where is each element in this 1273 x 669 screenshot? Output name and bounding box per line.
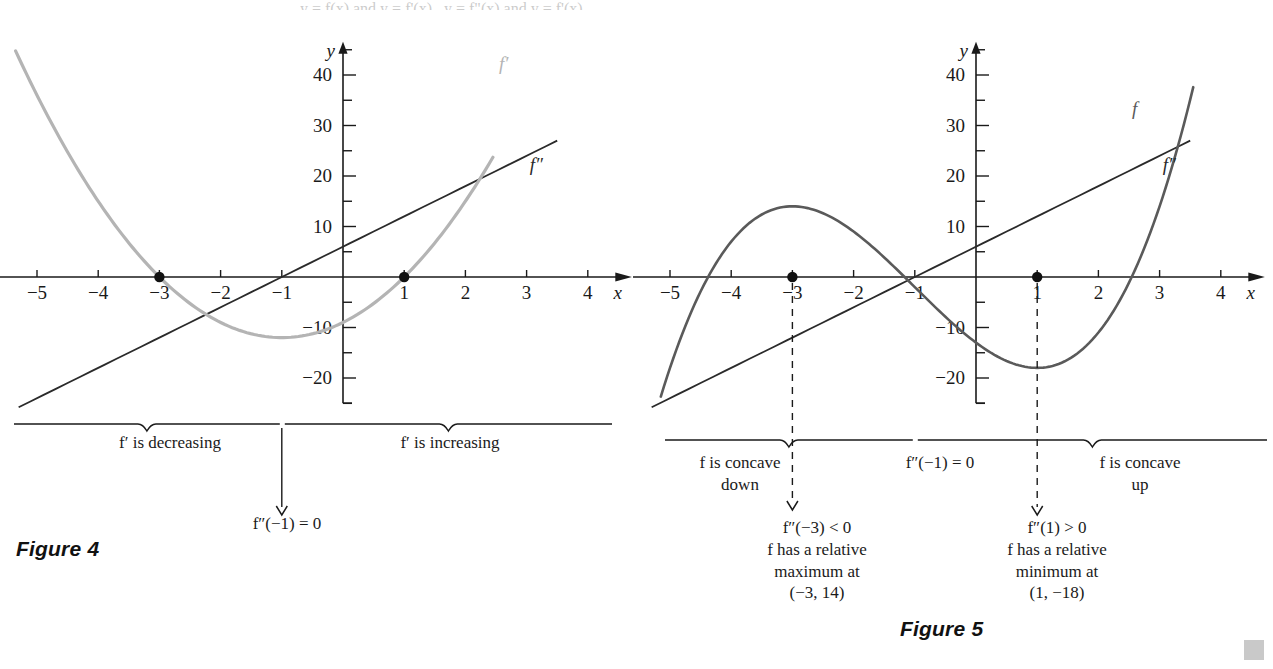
relative-minimum-arrow-head [1032,506,1043,515]
x-tick-label-7: 3 [1155,282,1165,303]
concave-down-label-line-1: down [721,475,759,494]
relative-maximum-line-0: f″(−3) < 0 [783,518,852,537]
y-tick-label-3: 10 [313,216,332,237]
brace-f-prime-increasing [285,424,612,431]
relative-minimum-line-3: (1, −18) [1030,583,1085,602]
marker-root-point-right [399,272,409,282]
y-tick-label-1: 30 [313,115,332,136]
inflection-note-text: f″(−1) = 0 [845,452,1035,474]
figure-page: y = f(x) and y = f'(x) , y = f"(x) and y… [0,0,1273,669]
y-tick-label-2: 20 [313,165,332,186]
y-axis-arrowhead [971,42,980,54]
relative-minimum-line-0: f″(1) > 0 [1027,518,1086,537]
f-double-prime-line-path [19,141,558,408]
x-tick-label-1: −4 [721,282,742,303]
inflection-callout-text: f″(−1) = 0 [187,513,387,535]
x-axis-arrowhead [1248,272,1265,281]
x-tick-label-7: 3 [522,282,532,303]
relative-minimum-line-1: f has a relative [1007,540,1107,559]
x-tick-label-6: 2 [461,282,471,303]
concave-up-label-line-0: f is concave [1099,453,1180,472]
relative-maximum-line-3: (−3, 14) [790,583,845,602]
cut-off-text-above: y = f(x) and y = f'(x) , y = f"(x) and y… [300,0,1000,10]
y-tick-label-5: −20 [302,367,332,388]
x-tick-label-0: −5 [27,282,47,303]
brace-label-f-prime-increasing: f′ is increasing [320,432,580,454]
brace-concave-up [918,440,1267,447]
curve-label-f-double-prime-line: f″ [1163,154,1177,175]
x-axis-label: x [1246,282,1256,303]
relative-maximum-line-1: f has a relative [767,540,867,559]
y-tick-label-1: 30 [946,115,965,136]
marker-relative-max-marker [787,272,797,282]
x-tick-label-3: −2 [210,282,230,303]
marker-relative-min-marker [1032,272,1042,282]
curve-label-f-prime-curve: f′ [499,53,509,74]
y-axis-label: y [958,40,969,61]
brace-f-prime-decreasing [14,424,280,431]
x-tick-label-1: −4 [88,282,109,303]
relative-minimum-line-2: minimum at [1016,562,1099,581]
callout-relative-maximum-text: f″(−3) < 0f has a relativemaximum at(−3,… [722,517,912,604]
x-tick-label-0: −5 [660,282,680,303]
f-double-prime-line-path [652,141,1191,408]
x-tick-label-8: 4 [1216,282,1226,303]
brace-label-f-prime-decreasing: f′ is decreasing [40,432,300,454]
brace-label-concave-down: f is concavedown [660,452,820,496]
concave-down-label-line-0: f is concave [699,453,780,472]
y-tick-label-3: 10 [946,216,965,237]
axes-group: −5−4−3−2−11234x40302010−10−20y [633,40,1265,403]
x-axis-arrowhead [615,272,632,281]
brace-concave-down [665,440,913,447]
x-axis-label: x [613,282,623,303]
figure-5-caption: Figure 5 [900,617,983,641]
x-tick-label-4: −1 [272,282,292,303]
relative-maximum-line-2: maximum at [774,562,859,581]
y-tick-label-2: 20 [946,165,965,186]
concave-up-label-line-1: up [1132,475,1149,494]
y-tick-label-5: −20 [935,367,965,388]
curve-label-f-double-prime-line: f″ [530,154,544,175]
brace-label-concave-up: f is concaveup [1060,452,1220,496]
x-tick-label-3: −2 [843,282,863,303]
x-tick-label-6: 2 [1094,282,1104,303]
y-tick-label-0: 40 [946,64,965,85]
page-corner-mark [1244,640,1264,660]
relative-maximum-arrow-head [787,501,798,510]
marker-root-point-left [154,272,164,282]
callout-relative-minimum-text: f″(1) > 0f has a relativeminimum at(1, −… [962,517,1152,604]
f-curve-path [661,87,1193,396]
x-tick-label-8: 4 [583,282,593,303]
x-tick-label-5: 1 [399,282,409,303]
axes-group: −5−4−3−2−11234x40302010−10−20y [0,40,632,403]
y-axis-arrowhead [338,42,347,54]
y-axis-label: y [325,40,336,61]
figure-4-caption: Figure 4 [16,537,99,561]
curve-label-f-curve: f [1132,98,1140,119]
y-tick-label-0: 40 [313,64,332,85]
